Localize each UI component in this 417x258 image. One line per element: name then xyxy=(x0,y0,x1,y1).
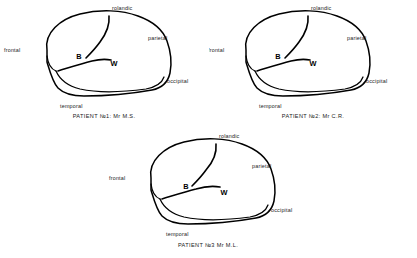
brain-diagram-1: B W frontal rolandic parietal occipital … xyxy=(0,0,208,112)
label-parietal-3: parietal xyxy=(252,163,271,169)
label-temporal-3: temporal xyxy=(166,231,189,237)
broca-marker-2: B xyxy=(275,52,280,61)
wernicke-marker-2: W xyxy=(310,59,317,68)
caption-patient-2: PATIENT №2: Mr C.R. xyxy=(209,113,417,119)
broca-marker-1: B xyxy=(76,52,81,61)
label-occipital-3: occipital xyxy=(271,207,292,213)
wernicke-marker-1: W xyxy=(111,59,118,68)
patient-panel-3: B W frontal rolandic parietal occipital … xyxy=(104,128,312,258)
brain-lesion-figure: B W frontal rolandic parietal occipital … xyxy=(0,0,417,258)
label-temporal-1: temporal xyxy=(60,103,83,109)
caption-patient-1: PATIENT №1: Mr M.S. xyxy=(0,113,208,119)
label-frontal-1: frontal xyxy=(4,47,20,53)
label-occipital-1: occipital xyxy=(167,78,188,84)
broca-marker-3: B xyxy=(183,182,188,191)
label-frontal-2: frontal xyxy=(209,47,224,53)
caption-patient-3: PATIENT №3 Mr M.L. xyxy=(104,242,312,248)
label-occipital-2: occipital xyxy=(366,78,387,84)
label-rolandic-1: rolandic xyxy=(112,5,133,11)
brain-diagram-3: B W frontal rolandic parietal occipital … xyxy=(104,128,312,240)
label-rolandic-2: rolandic xyxy=(311,5,332,11)
label-frontal-3: frontal xyxy=(109,175,125,181)
patient-panel-2: B W frontal rolandic parietal occipital … xyxy=(209,0,417,128)
label-parietal-1: parietal xyxy=(148,35,167,41)
patient-panel-1: B W frontal rolandic parietal occipital … xyxy=(0,0,208,128)
wernicke-marker-3: W xyxy=(221,188,228,197)
label-rolandic-3: rolandic xyxy=(219,133,240,139)
brain-diagram-2: B W frontal rolandic parietal occipital … xyxy=(209,0,417,112)
label-parietal-2: parietal xyxy=(347,35,366,41)
label-temporal-2: temporal xyxy=(259,103,282,109)
